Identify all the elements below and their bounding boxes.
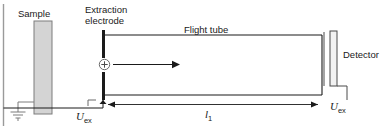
uex-left-symbol: Uex xyxy=(76,110,92,125)
extraction-supply-wire-joint xyxy=(100,100,107,104)
tof-mass-spectrometer-figure: Sample Extractionelectrode Flight tube D… xyxy=(0,0,388,130)
sample-slab xyxy=(34,21,52,114)
uex-left-base: U xyxy=(76,110,84,122)
detector-label: Detector xyxy=(343,49,379,60)
flight-length-subscript: 1 xyxy=(208,114,212,123)
uex-right-subscript: ex xyxy=(338,106,346,115)
earth-ground-icon xyxy=(11,112,26,121)
detector-plate xyxy=(330,31,337,86)
detector-bias-wire xyxy=(337,86,347,100)
flight-length-dimension-arrow xyxy=(108,101,318,107)
sample-ground-wire xyxy=(18,102,34,112)
extraction-electrode-label: Extractionelectrode xyxy=(85,4,127,26)
uex-right-base: U xyxy=(330,100,338,112)
extraction-electrode-upper-bar xyxy=(102,30,105,58)
uex-left-subscript: ex xyxy=(84,116,92,125)
extraction-electrode-lower-bar xyxy=(102,72,105,100)
positive-ion-icon xyxy=(99,59,109,69)
flight-length-symbol: l1 xyxy=(205,108,212,123)
uex-right-symbol: Uex xyxy=(330,100,346,115)
flight-tube-label: Flight tube xyxy=(184,24,228,35)
uex-left-leader-line xyxy=(88,100,96,106)
ion-flight-direction-arrow xyxy=(113,61,180,68)
sample-label: Sample xyxy=(18,8,50,19)
